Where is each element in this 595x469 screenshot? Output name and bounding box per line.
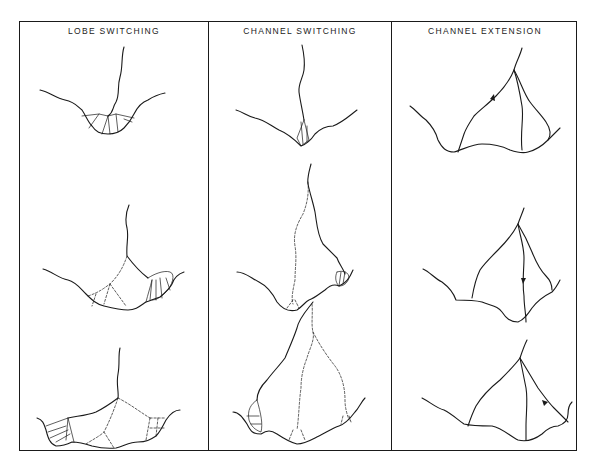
channel-switching-sketches bbox=[209, 22, 392, 452]
flow-arrow-icon bbox=[490, 94, 495, 101]
lobe-stage-3 bbox=[37, 348, 180, 448]
channel-stage-3 bbox=[233, 302, 365, 444]
extension-stage-1 bbox=[410, 48, 560, 153]
lobe-switching-sketches bbox=[20, 22, 208, 452]
extension-stage-2 bbox=[423, 208, 560, 322]
channel-stage-2 bbox=[237, 164, 353, 311]
extension-stage-3 bbox=[422, 340, 572, 441]
channel-stage-1 bbox=[236, 45, 357, 146]
lobe-stage-2 bbox=[43, 205, 184, 310]
panel-channel-extension: CHANNEL EXTENSION bbox=[391, 22, 578, 450]
diagram-frame: LOBE SWITCHING bbox=[19, 21, 577, 451]
panel-channel-switching: CHANNEL SWITCHING bbox=[208, 22, 391, 450]
channel-extension-sketches bbox=[392, 22, 579, 452]
panel-lobe-switching: LOBE SWITCHING bbox=[20, 22, 208, 450]
lobe-stage-1 bbox=[40, 47, 165, 134]
